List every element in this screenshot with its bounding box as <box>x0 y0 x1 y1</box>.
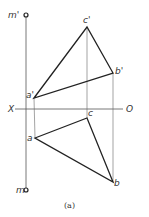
label-b: b <box>114 178 120 188</box>
label-m-prime: m' <box>8 10 19 20</box>
label-m: m <box>16 185 25 195</box>
label-a-prime: a' <box>26 90 34 100</box>
label-o-axis: O <box>126 104 133 114</box>
m-prime-point <box>24 13 28 17</box>
label-a: a <box>27 133 33 143</box>
label-x-axis: X <box>7 104 15 114</box>
top-view-triangle <box>35 118 113 182</box>
label-c-prime: c' <box>83 15 90 25</box>
label-c: c <box>88 108 93 118</box>
projection-diagram: m' c' b' a' X O c a b m (a) <box>0 0 149 217</box>
front-view-triangle <box>34 27 113 98</box>
label-b-prime: b' <box>115 66 123 76</box>
projector-a <box>34 98 35 138</box>
figure-caption: (a) <box>64 201 75 210</box>
